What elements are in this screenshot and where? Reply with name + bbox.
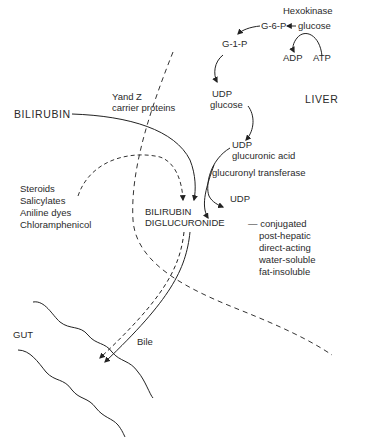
inhibitor-aniline-dyes: Aniline dyes (20, 207, 71, 218)
g1p-to-udpglucose-arrow (215, 55, 223, 82)
glucuronyl-transferase-label: glucuronyl transferase (212, 167, 305, 178)
hexokinase-label: Hexokinase (283, 5, 333, 16)
udp-out-label: UDP (230, 193, 250, 204)
property-water-soluble: water-soluble (258, 254, 316, 265)
inhibitor-salicylates: Salicylates (20, 195, 66, 206)
glucose-label: glucose (298, 20, 331, 31)
g6p-to-g1p-arrow (238, 26, 260, 34)
property-direct-acting: direct-acting (259, 242, 311, 253)
adp-label: ADP (283, 52, 303, 63)
udp-glucuronic-label-1: UDP (232, 139, 252, 150)
inhibitor-chloramphenicol: Chloramphenicol (20, 219, 91, 230)
udp-glucuronic-label-2: glucuronic acid (232, 150, 295, 161)
property-post-hepatic: post-hepatic (259, 230, 311, 241)
property-fat-insoluble: fat-insoluble (259, 266, 310, 277)
gut-wall-upper (33, 302, 153, 398)
gut-label: GUT (13, 329, 33, 340)
gut-wall-lower (18, 350, 125, 437)
inhibitor-steroids: Steroids (20, 183, 55, 194)
property-conjugated: — conjugated (248, 218, 307, 229)
liver-label: LIVER (305, 93, 338, 105)
bilirubin-label: BILIRUBIN (14, 108, 71, 120)
bilirubin-uptake-arrow (72, 114, 195, 200)
bile-label: Bile (137, 336, 153, 347)
product-label-1: BILIRUBIN (145, 206, 192, 217)
atp-label: ATP (313, 52, 331, 63)
inhibitor-dashed-arc (78, 155, 183, 200)
udp-glucose-label-2: glucose (210, 99, 243, 110)
carrier-label-2: carrier proteins (112, 102, 176, 113)
g1p-label: G-1-P (222, 38, 247, 49)
g6p-label: G-6-P (261, 20, 286, 31)
udp-glucose-label-1: UDP (212, 88, 232, 99)
bilirubin-metabolism-diagram: Hexokinase glucose G-6-P ADP ATP G-1-P U… (0, 0, 373, 447)
udpglucose-to-udpglucuronic-arrow (246, 106, 253, 140)
product-label-2: DIGLUCURONIDE (145, 217, 225, 228)
carrier-label-1: Yand Z (112, 91, 142, 102)
